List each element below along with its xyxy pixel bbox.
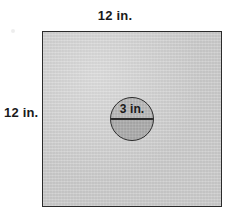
scan-artifact-speck	[11, 29, 15, 33]
circle-diameter-line	[111, 118, 153, 119]
circle-diameter-label: 3 in.	[110, 103, 154, 116]
circle-lower-half	[111, 119, 153, 140]
geometry-figure: 12 in. 12 in. 3 in.	[0, 0, 230, 216]
top-dimension-label: 12 in.	[0, 9, 230, 23]
left-dimension-label: 12 in.	[4, 106, 42, 120]
